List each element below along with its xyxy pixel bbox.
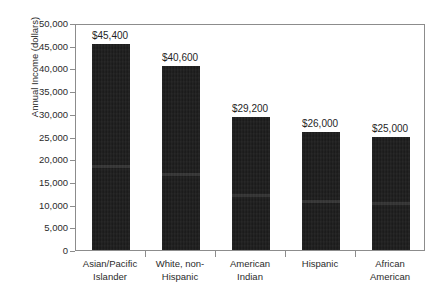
x-axis-label: Asian/PacificIslander: [70, 258, 150, 283]
bar-texture-band: [162, 173, 200, 176]
x-axis-label: AfricanAmerican: [350, 258, 430, 283]
x-axis-label: White, non-Hispanic: [140, 258, 220, 283]
y-tick-label: 45,000: [18, 42, 68, 52]
x-axis-label-line: American: [350, 271, 430, 284]
bar: [302, 132, 340, 250]
bar: [232, 117, 270, 250]
bar: [92, 44, 130, 250]
bar-value-label: $40,600: [140, 52, 220, 64]
x-axis-label-line: American: [210, 258, 290, 271]
x-axis-separator-tick: [145, 251, 146, 257]
bar: [162, 66, 200, 250]
bar-chart: Annual Income (dollars) 05,00010,00015,0…: [0, 0, 447, 298]
x-axis-label: Hispanic: [280, 258, 360, 271]
x-axis-label-line: African: [350, 258, 430, 271]
x-axis-label-line: Islander: [70, 271, 150, 284]
y-tick-label: 25,000: [18, 133, 68, 143]
x-axis-label-line: Indian: [210, 271, 290, 284]
bar: [372, 137, 410, 251]
bar-texture-band: [232, 194, 270, 197]
bar-texture-band: [92, 165, 130, 168]
x-axis-separator-tick: [285, 251, 286, 257]
y-tick-label: 5,000: [18, 223, 68, 233]
x-axis-label-line: Hispanic: [280, 258, 360, 271]
bar-texture-band: [372, 202, 410, 205]
y-tick-label: 50,000: [18, 19, 68, 29]
bar-value-label: $25,000: [350, 123, 430, 135]
plot-area: [75, 24, 425, 251]
x-axis-label: AmericanIndian: [210, 258, 290, 283]
y-tick-mark: [70, 251, 75, 252]
y-tick-label: 0: [18, 246, 68, 256]
x-axis-separator-tick: [355, 251, 356, 257]
y-tick-label: 20,000: [18, 155, 68, 165]
y-tick-label: 30,000: [18, 110, 68, 120]
bar-value-label: $29,200: [210, 103, 290, 115]
y-tick-label: 35,000: [18, 87, 68, 97]
x-axis-label-line: Hispanic: [140, 271, 220, 284]
x-axis-separator-tick: [215, 251, 216, 257]
x-axis-label-line: Asian/Pacific: [70, 258, 150, 271]
bar-value-label: $45,400: [70, 30, 150, 42]
y-tick-label: 10,000: [18, 201, 68, 211]
y-tick-label: 40,000: [18, 64, 68, 74]
x-axis-label-line: White, non-: [140, 258, 220, 271]
bar-value-label: $26,000: [280, 118, 360, 130]
bar-texture-band: [302, 200, 340, 203]
y-tick-label: 15,000: [18, 178, 68, 188]
